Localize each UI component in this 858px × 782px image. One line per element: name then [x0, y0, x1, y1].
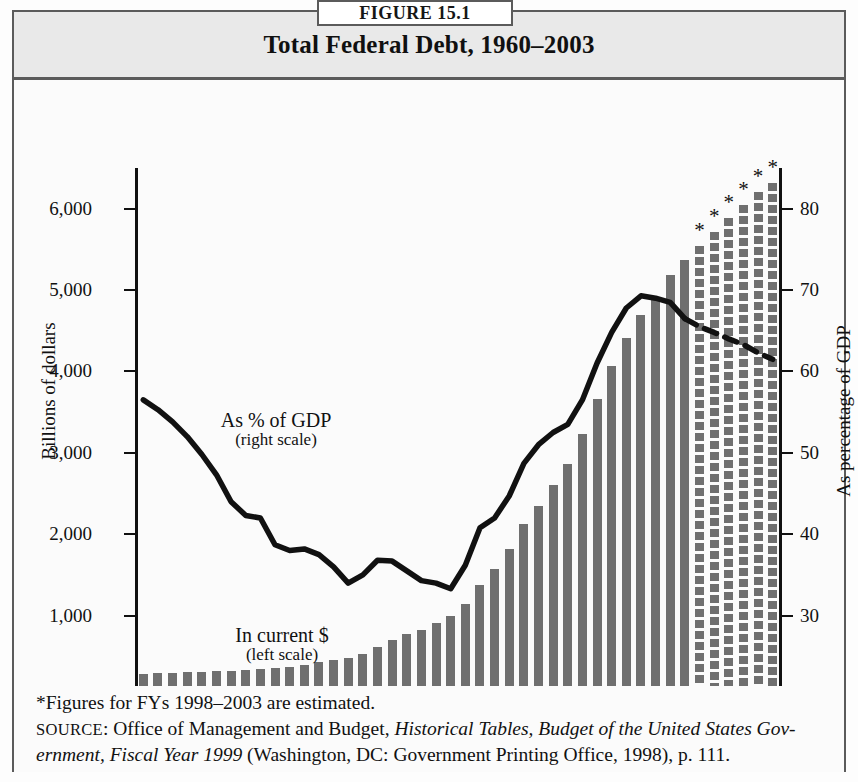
annotation-percent-of-gdp-sub: (right scale): [166, 431, 386, 449]
right-axis-tick: [782, 370, 793, 372]
annotation-current-dollars-main: In current $: [182, 625, 382, 646]
figure-number-tab: FIGURE 15.1: [317, 0, 513, 26]
figure-title: Total Federal Debt, 1960–2003: [14, 31, 844, 59]
left-axis-tick-label: 1,000: [6, 606, 92, 625]
left-axis-tick: [124, 533, 135, 535]
footnotes-block: *Figures for FYs 1998–2003 are estimated…: [14, 686, 844, 772]
right-axis-tick: [782, 615, 793, 617]
source-footnote: SOURCE: Office of Management and Budget,…: [36, 716, 822, 768]
gdp-line-estimated: [685, 319, 773, 360]
left-axis-tick-label: 6,000: [6, 199, 92, 218]
left-axis-tick: [124, 370, 135, 372]
source-title-italic-2: ernment, Fiscal Year 1999: [36, 744, 242, 765]
estimate-footnote: *Figures for FYs 1998–2003 are estimated…: [36, 690, 822, 716]
right-axis-line: [779, 168, 782, 700]
left-axis-tick: [124, 289, 135, 291]
source-text-part-1: Office of Management and Budget,: [113, 718, 394, 739]
left-axis-tick-label: 2,000: [6, 524, 92, 543]
right-axis-tick: [782, 452, 793, 454]
figure-container: FIGURE 15.1 Total Federal Debt, 1960–200…: [0, 0, 858, 782]
source-label: SOURCE: [36, 720, 103, 739]
right-axis-tick: [782, 208, 793, 210]
annotation-current-dollars: In current $ (left scale): [182, 625, 382, 664]
source-text-part-2: (Washington, DC: Government Printing Off…: [242, 744, 730, 765]
right-axis-tick: [782, 289, 793, 291]
right-axis-tick: [782, 533, 793, 535]
left-axis-tick: [124, 452, 135, 454]
source-separator: :: [103, 718, 113, 739]
right-axis-title: As percentage of GDP: [833, 281, 855, 541]
annotation-percent-of-gdp-main: As % of GDP: [166, 410, 386, 431]
left-axis-title: Billions of dollars: [38, 281, 60, 501]
left-axis-tick: [124, 208, 135, 210]
left-axis-tick: [124, 615, 135, 617]
annotation-percent-of-gdp: As % of GDP (right scale): [166, 410, 386, 449]
right-axis-tick-label: 80: [800, 199, 850, 218]
left-axis-line: [135, 168, 138, 700]
annotation-current-dollars-sub: (left scale): [182, 646, 382, 664]
line-series-layer: [14, 80, 844, 697]
plot-area: ****** 01,0002,0003,0004,0005,0006,00020…: [14, 80, 844, 686]
right-axis-tick-label: 30: [800, 606, 850, 625]
figure-frame: FIGURE 15.1 Total Federal Debt, 1960–200…: [12, 10, 846, 772]
source-title-italic-1: Historical Tables, Budget of the United …: [394, 718, 795, 739]
